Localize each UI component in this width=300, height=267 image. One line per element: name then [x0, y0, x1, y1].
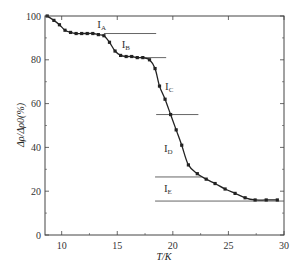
region-label-a: IA [97, 18, 106, 32]
data-point-marker [158, 84, 161, 87]
y-tick-label: 40 [31, 142, 41, 153]
y-tick-label: 80 [31, 54, 41, 65]
data-point-marker [223, 187, 226, 190]
data-point-marker [253, 198, 256, 201]
data-point-marker [136, 56, 139, 59]
data-point-marker [58, 23, 61, 26]
data-point-marker [265, 198, 268, 201]
series-line [47, 16, 277, 200]
data-point-marker [180, 144, 183, 147]
data-point-marker [75, 32, 78, 35]
data-point-marker [233, 192, 236, 195]
region-label-subscript: E [168, 188, 172, 196]
data-point-marker [91, 32, 94, 35]
region-label-subscript: D [168, 148, 173, 156]
x-tick-label: 25 [223, 240, 233, 251]
region-label-b: IB [122, 38, 131, 52]
data-point-marker [80, 32, 83, 35]
y-tick-label: 60 [31, 98, 41, 109]
data-point-marker [153, 67, 156, 70]
data-series [46, 14, 279, 201]
x-tick-label: 30 [279, 240, 289, 251]
y-axis-title: Δρ/Δρ0(%) [15, 102, 27, 148]
x-axis-title: T/K [156, 251, 172, 262]
data-point-marker [243, 196, 246, 199]
data-point-marker [141, 56, 144, 59]
data-point-marker [169, 113, 172, 116]
axis-ticks: 1015202530020406080100 [26, 11, 289, 252]
region-label-subscript: A [101, 24, 106, 32]
data-point-marker [205, 178, 208, 181]
data-point-marker [97, 33, 100, 36]
region-label-e: IE [164, 182, 172, 196]
region-label-subscript: B [125, 44, 130, 52]
data-point-marker [175, 128, 178, 131]
chart: 1015202530020406080100 IAIBICIDIE T/K Δρ… [0, 0, 300, 267]
plot-frame [45, 16, 284, 235]
region-labels: IAIBICIDIE [97, 18, 173, 196]
data-point-marker [130, 55, 133, 58]
y-tick-label: 0 [36, 230, 41, 241]
x-tick-label: 15 [112, 240, 122, 251]
plot-border [45, 16, 284, 235]
y-tick-label: 20 [31, 186, 41, 197]
region-label-subscript: C [169, 86, 174, 94]
x-tick-label: 10 [57, 240, 67, 251]
data-point-marker [119, 54, 122, 57]
y-tick-label: 100 [26, 11, 41, 22]
data-point-marker [196, 172, 199, 175]
region-label-c: IC [165, 80, 174, 94]
data-point-marker [213, 182, 216, 185]
data-point-marker [148, 58, 151, 61]
data-point-marker [102, 34, 105, 37]
data-point-marker [163, 98, 166, 101]
x-tick-label: 20 [168, 240, 178, 251]
data-point-marker [276, 198, 279, 201]
data-point-marker [86, 32, 89, 35]
data-point-marker [125, 55, 128, 58]
data-point-marker [69, 31, 72, 34]
reference-lines [104, 34, 284, 202]
data-point-marker [63, 29, 66, 32]
data-point-marker [108, 41, 111, 44]
data-point-marker [52, 19, 55, 22]
data-point-marker [187, 163, 190, 166]
region-label-d: ID [164, 142, 173, 156]
data-point-marker [113, 49, 116, 52]
